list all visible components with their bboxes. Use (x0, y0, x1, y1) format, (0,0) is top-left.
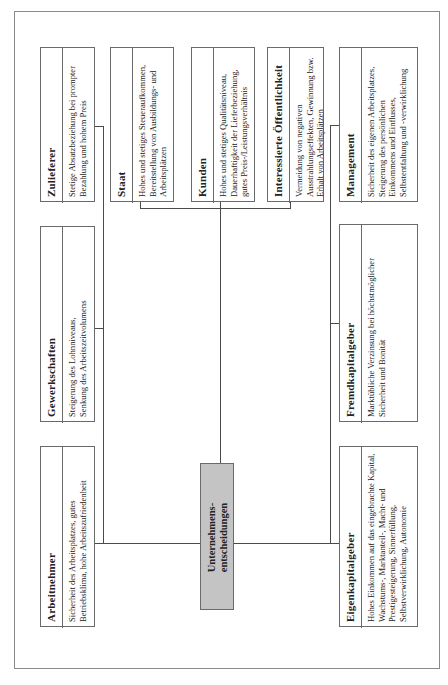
stakeholder-title: Gewerkschaften (41, 227, 63, 423)
stakeholder-description: Hohes Einkommen auf das eingebrachte Kap… (362, 447, 412, 628)
stakeholder-title: Zulieferer (41, 48, 63, 203)
connector-center-vertical (220, 201, 221, 464)
center-title-line1: Unternehmens- (206, 464, 218, 611)
stakeholder-description: Vermeidung von negativen Ausstrahlungsef… (290, 48, 330, 203)
center-title-line2: entscheidungen (218, 464, 230, 611)
stakeholder-title: Arbeitnehmer (41, 447, 63, 628)
stakeholder-title: Eigenkapitalgeber (340, 447, 362, 628)
stakeholder-oeffentlichkeit: Interessierte Öffentlichkeit Vermeidung … (267, 47, 324, 202)
stakeholder-description: Hohes und stetiges Qualitätsniveau, Daue… (214, 48, 254, 203)
stakeholder-description: Sicherheit des eigenen Arbeitsplatzes, S… (362, 48, 412, 203)
stakeholder-arbeitnehmer: Arbeitnehmer Sicherheit des Arbeitsplatz… (40, 446, 95, 627)
stakeholder-staat: Staat Hohes und stetiges Steueraufkommen… (110, 47, 174, 202)
stakeholder-zulieferer: Zulieferer Stetige Absatzbeziehung bei p… (40, 47, 95, 202)
stakeholder-description: Hohes und stetiges Steueraufkommen, Bere… (133, 48, 173, 203)
stakeholder-title: Staat (111, 48, 133, 203)
connector-bracket (140, 208, 291, 209)
center-box-unternehmensentscheidungen: Unternehmens- entscheidungen (200, 463, 234, 610)
stakeholder-fremdkapitalgeber: Fremdkapitalgeber Marktübliche Verzinsun… (339, 224, 418, 422)
stakeholder-title: Interessierte Öffentlichkeit (268, 48, 290, 203)
stakeholder-description: Marktübliche Verzinsung bei höchstmöglic… (362, 225, 391, 423)
connector-left-vertical (103, 126, 104, 544)
stakeholder-eigenkapitalgeber: Eigenkapitalgeber Hohes Einkommen auf da… (339, 446, 418, 627)
stakeholder-kunden: Kunden Hohes und stetiges Qualitätsnivea… (191, 47, 255, 202)
stakeholder-description: Stetige Absatzbeziehung bei prompter Bez… (63, 48, 92, 203)
stakeholder-title: Fremdkapitalgeber (340, 225, 362, 423)
stakeholder-description: Steigerung des Lohnniveaus, Senkung des … (63, 227, 92, 423)
stakeholder-management: Management Sicherheit des eigenen Arbeit… (339, 47, 418, 202)
connector-right-vertical (330, 125, 331, 544)
connector-zulieferer (95, 126, 104, 127)
stakeholder-title: Management (340, 48, 362, 203)
stakeholder-title: Kunden (192, 48, 214, 203)
connector-gewerkschaften (95, 328, 104, 329)
stakeholder-gewerkschaften: Gewerkschaften Steigerung des Lohnniveau… (40, 226, 95, 422)
stakeholder-description: Sicherheit des Arbeitsplatzes, gutes Bet… (63, 447, 92, 628)
